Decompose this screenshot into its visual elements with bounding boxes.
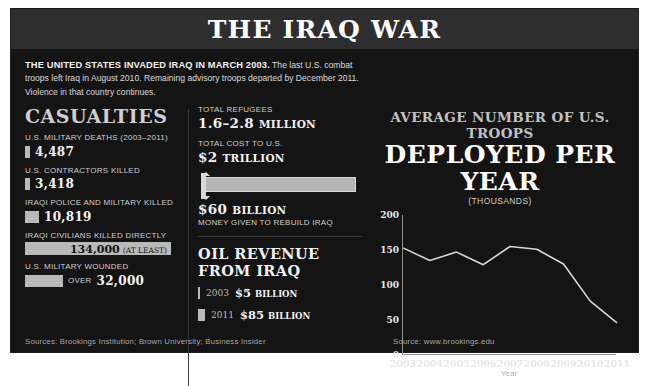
total-cost-number: $2 — [198, 149, 217, 165]
refugees-stat: TOTAL REFUGEES 1.6–2.8 MILLION — [198, 105, 362, 131]
oil-revenue-unit: BILLION — [268, 311, 310, 321]
chart-y-tick: 50 — [386, 315, 399, 325]
chart-y-tick: 200 — [380, 210, 399, 220]
casualty-label: U.S. CONTRACTORS KILLED — [25, 166, 182, 175]
casualty-suffix: OVER — [68, 276, 91, 285]
casualty-stat: U.S. CONTRACTORS KILLED3,418 — [25, 166, 182, 192]
oil-revenue-bar — [198, 287, 200, 299]
total-cost-value: $2 TRILLION — [198, 149, 362, 165]
oil-revenue-bar — [198, 309, 205, 321]
total-cost-bar — [201, 177, 356, 192]
chart-x-tick: 2007 — [497, 358, 523, 369]
total-cost-stat: TOTAL COST TO U.S. $2 TRILLION — [198, 139, 362, 165]
refugees-number: 1.6–2.8 — [198, 115, 254, 131]
casualty-value: 10,819 — [44, 210, 92, 224]
casualty-stat: U.S. MILITARY WOUNDEDOVER32,000 — [25, 262, 182, 288]
total-cost-label: TOTAL COST TO U.S. — [198, 139, 362, 148]
casualty-label: IRAQI POLICE AND MILITARY KILLED — [25, 198, 182, 207]
oil-revenue-unit: BILLION — [255, 289, 297, 299]
chart-x-tick: 2008 — [524, 358, 550, 369]
poster-title: THE IRAQ WAR — [208, 15, 441, 44]
intro-lead: THE UNITED STATES INVADED IRAQ IN MARCH … — [25, 60, 270, 70]
oil-revenue-year: 2003 — [206, 288, 229, 298]
casualty-bar-row: 3,418 — [25, 177, 182, 191]
refugees-label: TOTAL REFUGEES — [198, 105, 362, 114]
rebuild-cost-marker — [201, 173, 206, 199]
chart-subtitle: (THOUSANDS) — [374, 196, 626, 206]
casualties-heading: CASUALTIES — [25, 105, 182, 127]
rebuild-unit: BILLION — [232, 204, 286, 216]
casualty-label: U.S. MILITARY DEATHS (2003–2011) — [25, 133, 182, 142]
casualty-stat: IRAQI CIVILIANS KILLED DIRECTLY134,000(A… — [25, 231, 182, 256]
chart-series-svg — [403, 215, 617, 355]
chart-x-tick: 2004 — [417, 358, 443, 369]
casualty-value: 3,418 — [35, 177, 74, 191]
chart-title-block: AVERAGE NUMBER OF U.S. TROOPS DEPLOYED P… — [374, 105, 626, 206]
total-cost-unit: TRILLION — [223, 152, 285, 164]
marker-caret-down-icon — [202, 196, 210, 200]
chart-y-tick: 150 — [380, 245, 399, 255]
casualty-bar-row: 134,000(AT LEAST) — [25, 242, 182, 255]
chart-x-axis-label: Year — [402, 369, 616, 378]
casualty-bar — [25, 178, 30, 190]
casualty-suffix: (AT LEAST) — [123, 245, 167, 254]
rebuild-note: MONEY GIVEN TO REBUILD IRAQ — [198, 218, 362, 227]
poster-header: THE IRAQ WAR — [11, 9, 638, 49]
casualty-bar-row: 4,487 — [25, 145, 182, 159]
chart-x-tick: 2003 — [390, 358, 416, 369]
rebuild-value: $60 BILLION — [198, 201, 362, 217]
chart-x-tick: 2009 — [550, 358, 576, 369]
sources-right-text: Source: www.brookings.edu — [393, 337, 495, 346]
oil-revenue-row: 2003$5 BILLION — [198, 286, 362, 300]
chart-x-tick: 2005 — [443, 358, 469, 369]
oil-revenue-value: $85 BILLION — [240, 308, 310, 322]
refugees-value: 1.6–2.8 MILLION — [198, 115, 362, 131]
casualty-value: 4,487 — [35, 145, 74, 159]
rebuild-stat: $60 BILLION MONEY GIVEN TO REBUILD IRAQ — [198, 201, 362, 227]
oil-revenue-row: 2011$85 BILLION — [198, 308, 362, 322]
casualties-list: U.S. MILITARY DEATHS (2003–2011)4,487U.S… — [25, 133, 182, 288]
casualty-bar: 134,000(AT LEAST) — [25, 242, 171, 255]
casualty-bar-row: 10,819 — [25, 210, 182, 224]
casualty-label: U.S. MILITARY WOUNDED — [25, 262, 182, 271]
casualty-stat: U.S. MILITARY DEATHS (2003–2011)4,487 — [25, 133, 182, 159]
oil-revenue-list: 2003$5 BILLION2011$85 BILLION — [198, 286, 362, 322]
oil-revenue-value: $5 BILLION — [235, 286, 297, 300]
troops-line-chart: 0501001502002003200420052006200720082009… — [374, 211, 626, 386]
chart-title-line2: DEPLOYED PER YEAR — [374, 141, 626, 195]
marker-caret-up-icon — [202, 172, 210, 176]
casualty-value: 32,000 — [96, 274, 144, 288]
oil-revenue-heading: OIL REVENUE FROM IRAQ — [198, 245, 362, 279]
infographic-poster: THE IRAQ WAR THE UNITED STATES INVADED I… — [10, 8, 639, 353]
casualty-label: IRAQI CIVILIANS KILLED DIRECTLY — [25, 231, 182, 240]
casualty-value: 134,000(AT LEAST) — [70, 242, 167, 255]
chart-y-tick: 100 — [380, 280, 399, 290]
oil-revenue-year: 2011 — [211, 310, 234, 320]
chart-x-tick: 2011 — [604, 358, 630, 369]
chart-x-tick: 2006 — [470, 358, 496, 369]
chart-x-tick: 2010 — [577, 358, 603, 369]
casualty-bar — [25, 146, 30, 158]
chart-plot-area: 0501001502002003200420052006200720082009… — [402, 215, 616, 355]
section-divider — [198, 236, 362, 237]
cost-comparison-bar — [198, 173, 356, 199]
sources-left-text: Sources: Brookings Institution; Brown Un… — [25, 337, 266, 346]
chart-line-series — [403, 247, 617, 323]
casualty-bar — [25, 211, 39, 223]
chart-title-line1: AVERAGE NUMBER OF U.S. TROOPS — [374, 109, 626, 141]
intro-paragraph: THE UNITED STATES INVADED IRAQ IN MARCH … — [11, 49, 383, 105]
casualty-stat: IRAQI POLICE AND MILITARY KILLED10,819 — [25, 198, 182, 224]
casualty-bar-row: OVER32,000 — [25, 274, 182, 288]
refugees-unit: MILLION — [259, 118, 316, 130]
casualty-bar — [25, 275, 63, 287]
rebuild-number: $60 — [198, 201, 227, 217]
